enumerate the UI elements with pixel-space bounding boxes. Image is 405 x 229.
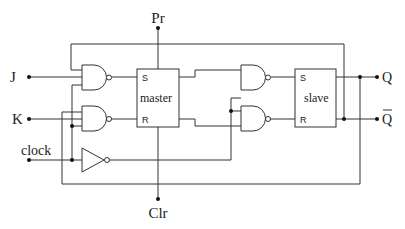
preset-input: Pr <box>151 10 164 69</box>
slave-label: slave <box>304 91 329 105</box>
preset-label: Pr <box>151 10 164 26</box>
master-block: S master R <box>137 69 179 127</box>
clock-label: clock <box>21 143 51 158</box>
clear-input: Clr <box>148 127 167 221</box>
q-bar-label: Q <box>382 112 392 127</box>
slave-r-pin: R <box>300 115 307 125</box>
slave-s-pin: S <box>300 73 306 83</box>
k-input <box>27 117 82 121</box>
nand-gate-j <box>82 65 137 90</box>
q-label: Q <box>382 70 392 85</box>
master-label: master <box>140 91 172 105</box>
j-input <box>27 75 82 79</box>
clear-label: Clr <box>148 205 167 221</box>
flip-flop-diagram: S master R Pr Clr S slave R <box>0 0 405 229</box>
nand-gate-slave-s <box>241 65 295 90</box>
nand-gate-slave-r <box>241 106 295 131</box>
slave-block: S slave R <box>295 69 336 127</box>
nand-gate-k <box>82 106 137 131</box>
master-r-pin: R <box>142 115 149 125</box>
k-label: K <box>12 111 23 127</box>
master-s-pin: S <box>142 73 148 83</box>
j-label: J <box>10 69 16 85</box>
